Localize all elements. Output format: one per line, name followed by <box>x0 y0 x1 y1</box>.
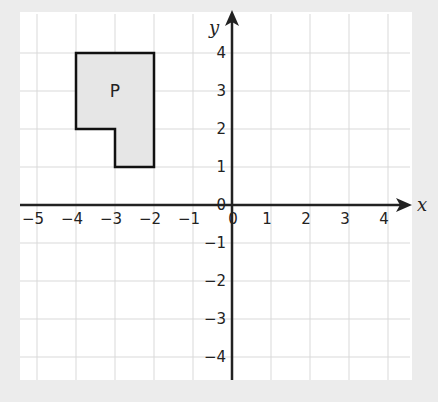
y-tick-label: −3 <box>204 310 226 328</box>
x-tick-label: −4 <box>61 210 83 228</box>
x-tick-label: 2 <box>301 210 311 228</box>
y-tick-label: −1 <box>204 234 226 252</box>
x-tick-labels: −5−4−3−2−101234 <box>22 210 389 228</box>
x-tick-label: 0 <box>228 210 238 228</box>
y-axis-label: y <box>208 17 220 38</box>
x-tick-label: −5 <box>22 210 44 228</box>
x-tick-label: 4 <box>379 210 389 228</box>
x-tick-label: −2 <box>139 210 161 228</box>
shape-p <box>76 53 154 167</box>
y-tick-label: 1 <box>216 158 226 176</box>
y-tick-label: 0 <box>216 196 226 214</box>
y-tick-label: 3 <box>216 82 226 100</box>
y-tick-label: 2 <box>216 120 226 138</box>
x-tick-label: 3 <box>340 210 350 228</box>
y-tick-label: −2 <box>204 272 226 290</box>
shape-p-label: P <box>110 81 120 101</box>
coordinate-grid: P x y −5−4−3−2−101234 43210−1−2−3−4 <box>0 0 438 402</box>
y-tick-label: 4 <box>216 44 226 62</box>
x-tick-label: −1 <box>178 210 200 228</box>
x-tick-label: −3 <box>100 210 122 228</box>
y-tick-label: −4 <box>204 348 226 366</box>
x-tick-label: 1 <box>262 210 272 228</box>
x-axis-label: x <box>417 194 427 215</box>
